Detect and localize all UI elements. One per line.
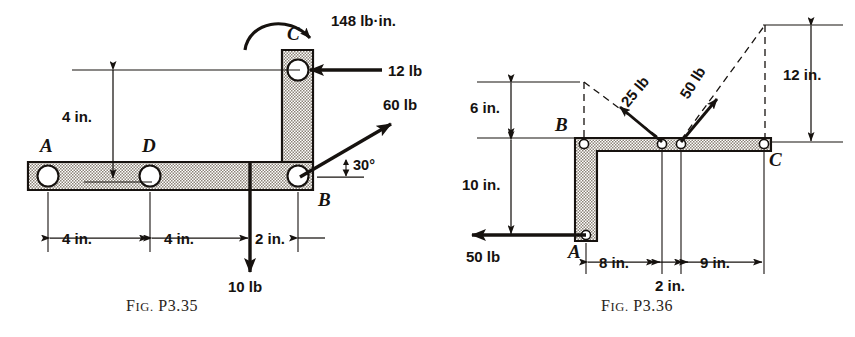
point-label-b-p335: B	[317, 189, 331, 210]
figure-p336: B C A 25 lb 50 lb 50 lb 6 in. 10 in. 12 …	[462, 25, 843, 314]
figure-sheet: A D B C 148 lb·in. 12 lb 60 lb 30° 10 lb…	[0, 0, 855, 337]
angle-tick-arrow-p335	[343, 170, 350, 177]
caption-prefix-p336: F	[601, 297, 611, 314]
point-label-a-p336: A	[567, 241, 581, 262]
moment-arc-p335	[245, 24, 310, 50]
point-label-c-p336: C	[769, 149, 782, 170]
point-label-b-p336: B	[554, 114, 568, 135]
hole-c-p336	[759, 139, 768, 148]
force-label-10lb-p335: 10 lb	[228, 278, 262, 295]
hole-b-p336	[579, 139, 588, 148]
svg-text:FIG. P3.35: FIG. P3.35	[126, 297, 198, 314]
hole-b-p335	[288, 166, 309, 187]
force-arrow-50lb-right-p336	[681, 99, 717, 142]
force-label-60lb-p335: 60 lb	[383, 96, 417, 113]
dim-label-9in-p336: 9 in.	[700, 254, 730, 271]
caption-p335: FIG. P3.35	[126, 297, 198, 314]
dim-label-10in-p336: 10 in.	[462, 176, 500, 193]
angle-label-30deg-p335: 30°	[353, 157, 375, 173]
hole-d-p335	[140, 166, 161, 187]
force-arrow-25lb-p336	[620, 107, 662, 142]
caption-number-p336: P3.36	[633, 297, 673, 314]
force-label-50lb-left-p336: 50 lb	[466, 248, 500, 265]
moment-label-p335: 148 lb·in.	[331, 12, 396, 29]
dim-label-4in-dload-p335: 4 in.	[164, 230, 194, 247]
dim-label-8in-p336: 8 in.	[599, 254, 629, 271]
point-label-a-p335: A	[39, 135, 53, 156]
force-label-12lb-p335: 12 lb	[388, 62, 422, 79]
svg-text:FIG. P3.36: FIG. P3.36	[601, 297, 673, 314]
caption-smallcaps-p336: IG.	[611, 300, 629, 314]
force-label-50lb-right-p336: 50 lb	[676, 64, 709, 102]
dim-label-12in-p336: 12 in.	[783, 66, 821, 83]
caption-prefix-p335: F	[126, 297, 136, 314]
dim-label-2in-p336: 2 in.	[655, 277, 685, 294]
point-label-d-p335: D	[141, 135, 156, 156]
figure-p335: A D B C 148 lb·in. 12 lb 60 lb 30° 10 lb…	[28, 12, 422, 314]
dim-label-4in-vertical-p335: 4 in.	[62, 108, 92, 125]
bracket-horizontal-arm-p335	[28, 162, 313, 190]
dim-label-2in-p335: 2 in.	[255, 230, 285, 247]
force-label-25lb-p336: 25 lb	[617, 73, 652, 110]
bracket-body-p336	[575, 138, 771, 241]
angle-tick-arrow-top-p335	[343, 159, 349, 165]
dim-label-4in-ad-p335: 4 in.	[62, 230, 92, 247]
caption-smallcaps-p335: IG.	[136, 300, 154, 314]
caption-p336: FIG. P3.36	[601, 297, 673, 314]
dim-label-6in-p336: 6 in.	[470, 99, 500, 116]
caption-number-p335: P3.35	[158, 297, 198, 314]
hole-a-p335	[38, 166, 59, 187]
